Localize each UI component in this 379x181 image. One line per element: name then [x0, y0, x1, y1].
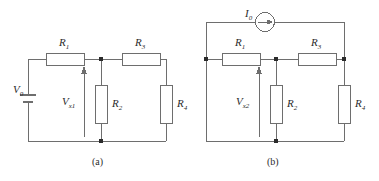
- resistor-a-r1-body: [46, 53, 84, 65]
- label-b-r3: R3: [311, 37, 321, 51]
- label-a-r2: R2: [112, 98, 122, 112]
- label-b-r4: R4: [355, 98, 365, 112]
- resistor-a-r4-body: [160, 85, 172, 123]
- label-b-vx2: Vx2: [236, 96, 249, 110]
- node-b-left: [204, 57, 208, 61]
- node-a-bottom: [99, 139, 103, 143]
- label-b-source-i0: I0: [245, 8, 252, 22]
- caption-b: (b): [267, 157, 279, 167]
- node-b-bottom: [274, 139, 278, 143]
- label-a-vx1: Vx1: [62, 96, 75, 110]
- label-a-r3: R3: [135, 37, 145, 51]
- label-a-r1: R1: [59, 37, 69, 51]
- vx1-arrow-head: [81, 66, 87, 74]
- resistor-b-r4-body: [338, 85, 350, 123]
- node-b-top: [274, 57, 278, 61]
- label-b-r1: R1: [235, 37, 245, 51]
- node-b-right: [342, 57, 346, 61]
- vx2-arrow-head: [256, 66, 262, 74]
- node-a-top: [99, 57, 103, 61]
- circuit-figure: R1 R3 R2 R4 V0 Vx1 (a) R1 R3 R2 R4 I0 Vx…: [0, 0, 379, 181]
- caption-a: (a): [92, 157, 103, 167]
- resistor-a-r3-body: [122, 53, 160, 65]
- resistor-b-r3-body: [298, 53, 336, 65]
- circuit-a-group: [20, 53, 172, 143]
- label-a-r4: R4: [177, 98, 187, 112]
- resistor-b-r1-body: [222, 53, 260, 65]
- resistor-b-r2-body: [270, 85, 282, 123]
- label-b-r2: R2: [287, 98, 297, 112]
- circuit-b-group: [204, 13, 350, 144]
- circuit-drawing: [0, 0, 379, 181]
- label-a-source-v0: V0: [13, 84, 23, 98]
- resistor-a-r2-body: [95, 85, 107, 123]
